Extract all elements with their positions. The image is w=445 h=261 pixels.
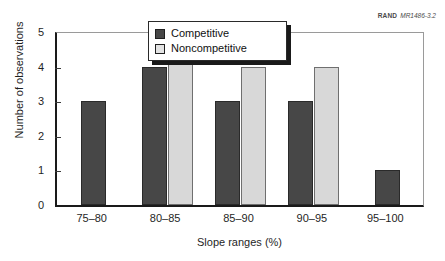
x-tick-label: 95–100 [367,212,404,224]
rand-document-number: MR1486-3.2 [400,12,436,19]
legend-item-noncompetitive: Noncompetitive [155,41,280,56]
y-tick-label: 4 [38,61,44,73]
bar-competitive-90-95 [288,101,313,205]
y-tick-label: 1 [38,164,44,176]
legend-item-competitive: Competitive [155,26,280,41]
x-axis-title: Slope ranges (%) [55,236,424,248]
y-tick-label: 3 [38,95,44,107]
bar-noncompetitive-85-90 [241,67,266,205]
y-axis-tick [55,102,61,103]
bar-competitive-80-85 [142,67,167,205]
legend-label-noncompetitive: Noncompetitive [171,43,247,54]
bar-competitive-95-100 [375,170,400,205]
x-tick-label: 90–95 [297,212,328,224]
x-tick-label: 75–80 [76,212,107,224]
x-tick-label: 80–85 [150,212,181,224]
bar-competitive-85-90 [215,101,240,205]
figure-bar-chart: RANDMR1486-3.2 Number of observations 01… [0,0,445,261]
y-tick-label: 2 [38,130,44,142]
bar-competitive-75-80 [81,101,106,205]
bar-noncompetitive-90-95 [314,67,339,205]
y-axis-tick [55,68,61,69]
rand-credit-line: RANDMR1486-3.2 [330,12,436,19]
y-axis-tick-labels: 012345 [0,32,48,207]
chart-legend: CompetitiveNoncompetitive [148,21,287,61]
y-axis-tick [55,171,61,172]
legend-swatch-noncompetitive [155,44,165,54]
legend-swatch-competitive [155,29,165,39]
x-axis-tick-labels: 75–8080–8585–9090–9595–100 [55,212,424,228]
y-tick-label: 5 [38,26,44,38]
legend-label-competitive: Competitive [171,28,229,39]
rand-logo-text: RAND [378,12,398,19]
y-tick-label: 0 [38,199,44,211]
x-tick-label: 85–90 [223,212,254,224]
y-axis-tick [55,137,61,138]
